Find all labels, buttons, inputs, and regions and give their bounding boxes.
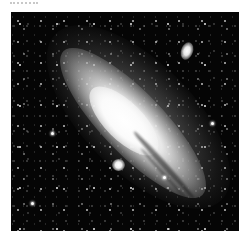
clipped-caption [10,0,50,4]
bright-star [31,202,34,205]
bright-star [211,122,214,125]
page [0,0,245,244]
galaxy-photo [11,12,239,231]
bright-star [163,176,166,179]
satellite-galaxy-m32 [112,159,125,171]
bright-star [51,132,54,135]
caption-text [10,0,38,4]
